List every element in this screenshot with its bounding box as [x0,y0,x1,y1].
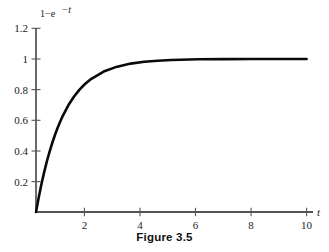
chart-plot-area: 1.2 1 0.8 0.6 0.4 0.2 2 4 6 8 10 1−e −t … [0,0,329,252]
x-tick-label-2: 2 [82,219,88,231]
x-tick-label-6: 6 [193,219,199,231]
x-axis-label: t [317,206,321,218]
y-axis-label: 1−e −t [40,4,71,20]
y-tick-label-1: 1 [23,53,29,65]
y-tick-label-0.4: 0.4 [14,145,28,157]
y-tick-label-0.2: 0.2 [14,176,28,188]
figure-container: 1.2 1 0.8 0.6 0.4 0.2 2 4 6 8 10 1−e −t … [0,0,329,252]
y-tick-label-0.6: 0.6 [14,114,28,126]
x-tick-label-4: 4 [137,219,143,231]
x-tick-label-10: 10 [301,219,313,231]
x-tick-label-8: 8 [248,219,254,231]
y-axis-label-exponent: −t [62,4,72,15]
y-tick-label-1.2: 1.2 [14,22,28,34]
data-curve-exponential [36,59,307,212]
y-tick-label-0.8: 0.8 [14,84,28,96]
figure-caption: Figure 3.5 [0,231,329,243]
y-axis-label-base: 1−e [40,8,56,19]
